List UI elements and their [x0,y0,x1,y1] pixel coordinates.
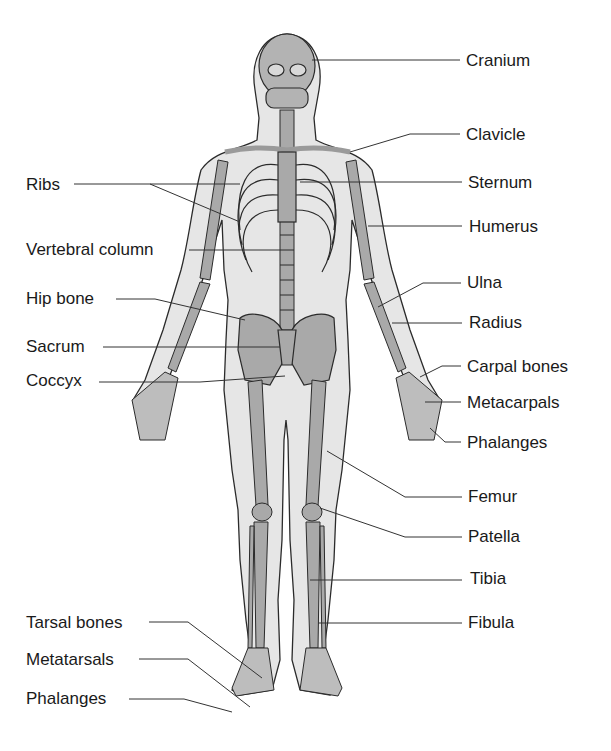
label-patella: Patella [468,528,520,545]
label-carpal-bones: Carpal bones [467,358,568,375]
label-clavicle: Clavicle [466,126,526,143]
label-ribs: Ribs [26,176,60,193]
label-sternum: Sternum [468,174,532,191]
label-cranium: Cranium [466,52,530,69]
label-metatarsals: Metatarsals [26,651,114,668]
label-hip-bone: Hip bone [26,290,94,307]
label-metacarpals: Metacarpals [467,394,560,411]
label-femur: Femur [468,488,517,505]
label-coccyx: Coccyx [26,372,82,389]
feet [232,648,342,696]
skull [259,34,315,108]
label-tarsal-bones: Tarsal bones [26,614,122,631]
label-sacrum: Sacrum [26,338,85,355]
label-phalanges-foot: Phalanges [26,690,106,707]
label-ulna: Ulna [467,274,502,291]
label-tibia: Tibia [470,570,506,587]
skeleton-diagram: Ribs Vertebral column Hip bone Sacrum Co… [0,0,611,751]
label-phalanges-hand: Phalanges [467,434,547,451]
label-radius: Radius [469,314,522,331]
label-vertebral-column: Vertebral column [26,241,154,258]
label-humerus: Humerus [469,218,538,235]
label-fibula: Fibula [468,614,514,631]
